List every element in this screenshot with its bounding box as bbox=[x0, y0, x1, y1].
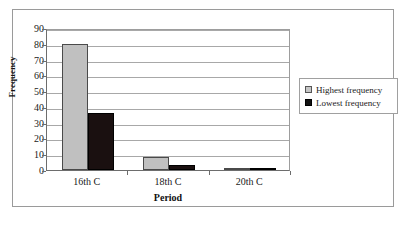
plot-area bbox=[46, 29, 290, 171]
y-tick-label: 30 bbox=[18, 119, 44, 129]
y-tick-label: 60 bbox=[18, 71, 44, 81]
y-tick-mark bbox=[42, 155, 46, 156]
bar-lowest-2 bbox=[250, 168, 276, 170]
y-tick-mark bbox=[42, 61, 46, 62]
y-tick-label: 10 bbox=[18, 150, 44, 160]
y-tick-label: 70 bbox=[18, 56, 44, 66]
y-tick-mark bbox=[42, 29, 46, 30]
bar-lowest-1 bbox=[169, 165, 195, 170]
y-tick-mark bbox=[42, 76, 46, 77]
chart-legend: Highest frequency Lowest frequency bbox=[299, 78, 398, 114]
y-tick-label: 20 bbox=[18, 134, 44, 144]
bar-highest-1 bbox=[143, 157, 169, 170]
y-axis-title: Frequency bbox=[7, 47, 17, 107]
y-axis-tick-labels: 0102030405060708090 bbox=[14, 0, 44, 225]
y-tick-mark bbox=[42, 45, 46, 46]
y-tick-mark bbox=[42, 171, 46, 172]
y-tick-mark bbox=[42, 92, 46, 93]
y-tick-label: 0 bbox=[18, 166, 44, 176]
x-tick-label: 16th C bbox=[47, 176, 127, 187]
x-tick-mark bbox=[209, 171, 210, 175]
bar-lowest-0 bbox=[88, 113, 114, 170]
x-tick-label: 20th C bbox=[209, 176, 289, 187]
chart-figure: 0102030405060708090 Frequency 16th C18th… bbox=[0, 0, 406, 225]
bar-highest-2 bbox=[224, 168, 250, 170]
y-tick-mark bbox=[42, 108, 46, 109]
y-tick-mark bbox=[42, 139, 46, 140]
y-tick-label: 80 bbox=[18, 40, 44, 50]
legend-item-highest-frequency: Highest frequency bbox=[305, 83, 393, 96]
y-tick-label: 40 bbox=[18, 103, 44, 113]
x-tick-label: 18th C bbox=[128, 176, 208, 187]
y-tick-label: 90 bbox=[18, 24, 44, 34]
gridline bbox=[47, 30, 289, 31]
legend-item-lowest-frequency: Lowest frequency bbox=[305, 96, 393, 109]
x-tick-mark bbox=[290, 171, 291, 175]
x-axis-title: Period bbox=[46, 192, 290, 203]
x-tick-mark bbox=[127, 171, 128, 175]
lowest-frequency-swatch-icon bbox=[305, 99, 312, 106]
legend-label-lowest: Lowest frequency bbox=[316, 98, 381, 108]
y-tick-mark bbox=[42, 124, 46, 125]
bar-highest-0 bbox=[62, 44, 88, 170]
legend-label-highest: Highest frequency bbox=[316, 85, 382, 95]
highest-frequency-swatch-icon bbox=[305, 86, 312, 93]
y-tick-label: 50 bbox=[18, 87, 44, 97]
